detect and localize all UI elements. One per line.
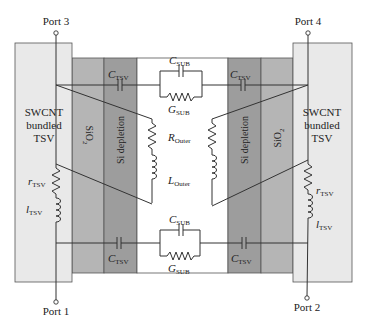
svg-text:SWCNT: SWCNT (303, 106, 342, 118)
c-sub-top-label: CSUB (169, 54, 190, 68)
left-tsv-block (15, 43, 72, 282)
right-depletion-label: Si depletion (239, 116, 250, 164)
svg-text:TSV: TSV (34, 132, 55, 144)
port3-label: Port 3 (43, 15, 70, 27)
tsv-circuit-diagram: Port 3 Port 4 Port 1 Port 2 SWCNT bundle… (0, 0, 366, 328)
svg-text:TSV: TSV (312, 132, 333, 144)
port4-label: Port 4 (295, 15, 322, 27)
port2-label: Port 2 (294, 301, 321, 313)
port4-terminal (306, 31, 310, 35)
left-depletion-label: Si depletion (115, 116, 126, 164)
port1-label: Port 1 (43, 305, 70, 317)
svg-text:bundled: bundled (26, 119, 62, 131)
port2-terminal (305, 296, 309, 300)
left-sio2-layer (72, 58, 104, 273)
svg-text:bundled: bundled (304, 119, 340, 131)
right-sio2-layer (261, 58, 293, 273)
substrate-region (137, 58, 228, 273)
port3-terminal (54, 31, 58, 35)
svg-text:SWCNT: SWCNT (25, 106, 64, 118)
port1-terminal (54, 300, 58, 304)
